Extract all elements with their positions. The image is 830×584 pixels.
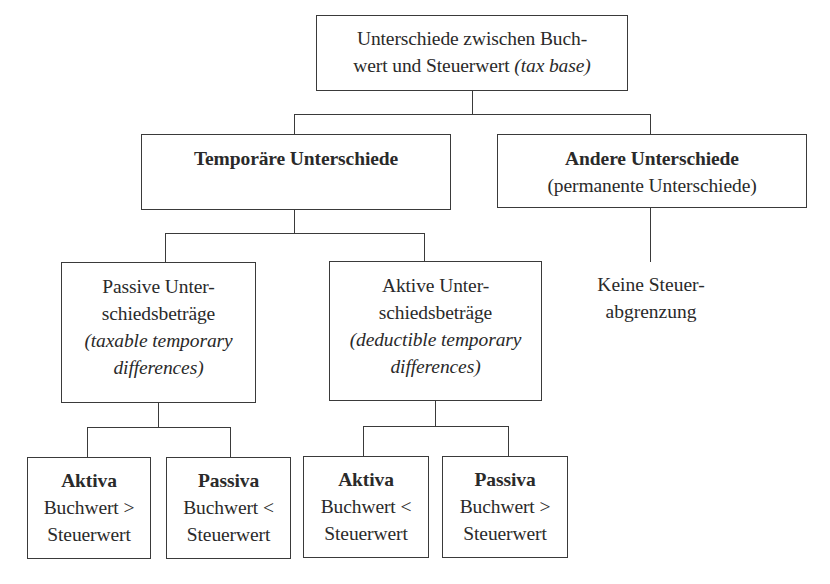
leaf-line1: Buchwert > [460, 493, 551, 520]
leaf-line2: Steuerwert [47, 521, 130, 548]
node-passive-differences: Passive Unter- schiedsbeträge (taxable t… [61, 262, 256, 403]
connector-other-up [650, 114, 651, 134]
leaf-title: Passiva [198, 467, 259, 494]
tax-differences-tree-diagram: Unterschiede zwischen Buch- wert und Ste… [0, 0, 830, 584]
root-node-line2-italic: (tax base) [514, 55, 590, 76]
node-other-title: Andere Unterschiede [565, 145, 739, 172]
node-temporary-differences: Temporäre Unterschiede [141, 134, 451, 210]
leaf-line1: Buchwert < [183, 494, 274, 521]
node-active-differences: Aktive Unter- schiedsbeträge (deductible… [329, 261, 542, 401]
node-other-differences: Andere Unterschiede (permanente Untersch… [497, 134, 807, 208]
note-line2: abgrenzung [571, 298, 731, 325]
connector-level2-horizontal [165, 233, 425, 234]
connector-active-up [424, 233, 425, 261]
leaf-line2: Steuerwert [324, 520, 407, 547]
connector-temporary-down [294, 210, 295, 234]
node-active-line4: differences) [390, 353, 480, 380]
leaf-title: Passiva [474, 466, 535, 493]
note-line1: Keine Steuer- [571, 271, 731, 298]
leaf-line2: Steuerwert [187, 521, 270, 548]
root-node-line2: wert und Steuerwert (tax base) [353, 52, 590, 79]
leaf-line1: Buchwert < [321, 493, 412, 520]
leaf-title: Aktiva [338, 466, 394, 493]
node-other-subtitle: (permanente Unterschiede) [547, 172, 756, 199]
root-node-line1: Unterschiede zwischen Buch- [357, 25, 587, 52]
node-passive-line4: differences) [113, 354, 203, 381]
connector-temporary-up [294, 114, 295, 134]
connector-passive-down [158, 403, 159, 428]
leaf-passive-liabilities: Passiva Buchwert < Steuerwert [166, 457, 291, 559]
leaf-active-assets: Aktiva Buchwert < Steuerwert [303, 456, 429, 558]
connector-other-down [650, 208, 651, 262]
node-active-line3: (deductible temporary [350, 326, 522, 353]
leaf-line1: Buchwert > [44, 494, 135, 521]
leaf-active-liabilities: Passiva Buchwert > Steuerwert [442, 456, 568, 558]
note-no-tax-deferral: Keine Steuer- abgrenzung [571, 271, 731, 325]
node-passive-line1: Passive Unter- [102, 273, 214, 300]
root-node-line2-text: wert und Steuerwert [353, 55, 514, 76]
connector-leaf3-up [363, 426, 364, 456]
connector-active-down [435, 401, 436, 426]
connector-leaf2-up [230, 427, 231, 457]
leaf-passive-assets: Aktiva Buchwert > Steuerwert [27, 457, 151, 559]
connector-leaf1-up [87, 427, 88, 457]
connector-level3-right-horizontal [363, 426, 508, 427]
node-passive-line2: schiedsbeträge [102, 300, 215, 327]
node-active-line1: Aktive Unter- [382, 272, 489, 299]
connector-leaf4-up [508, 426, 509, 456]
connector-passive-up [165, 233, 166, 262]
leaf-line2: Steuerwert [463, 520, 546, 547]
root-node-book-vs-tax-value: Unterschiede zwischen Buch- wert und Ste… [316, 15, 628, 91]
connector-level1-horizontal [294, 114, 651, 115]
leaf-title: Aktiva [61, 467, 117, 494]
node-passive-line3: (taxable temporary [84, 327, 232, 354]
connector-level3-left-horizontal [87, 427, 230, 428]
node-temporary-title: Temporäre Unterschiede [194, 145, 398, 172]
connector-root-down [472, 91, 473, 114]
node-active-line2: schiedsbeträge [379, 299, 492, 326]
